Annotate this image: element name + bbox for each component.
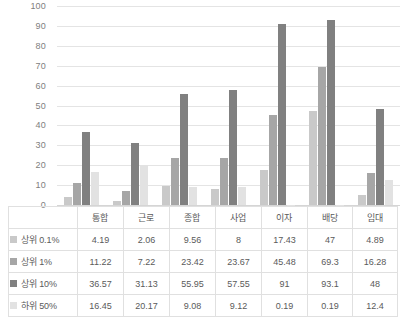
bar <box>260 170 268 205</box>
y-axis-tick: 50 <box>36 101 46 111</box>
table-value-cell: 57.55 <box>216 273 262 295</box>
table-value-cell: 0.19 <box>308 295 353 317</box>
y-axis: 100 90 80 70 60 50 40 30 20 10 0 <box>0 0 52 212</box>
table-value-cell: 69.3 <box>308 251 353 273</box>
table-value-cell: 45.48 <box>262 251 308 273</box>
category-header-cell: 사업 <box>216 207 262 229</box>
table-row: 상위 10%36.5731.1355.9557.559193.148 <box>9 273 398 295</box>
legend-label: 상위 0.1% <box>21 233 59 246</box>
bar <box>376 109 384 205</box>
bar-group <box>302 6 351 205</box>
bar-group <box>155 6 204 205</box>
plot-wrapper: 100 90 80 70 60 50 40 30 20 10 0 <box>0 0 403 212</box>
table-value-cell: 20.17 <box>124 295 170 317</box>
table-value-cell: 93.1 <box>308 273 353 295</box>
table-value-cell: 47 <box>308 229 353 251</box>
legend-label: 상위 1% <box>21 255 52 268</box>
bar <box>238 187 246 205</box>
bar <box>189 187 197 205</box>
bar <box>180 94 188 205</box>
legend-cell: 상위 1% <box>9 251 78 273</box>
y-axis-tick: 100 <box>30 1 46 11</box>
table-value-cell: 31.13 <box>124 273 170 295</box>
bar <box>367 173 375 205</box>
legend-swatch-icon <box>10 258 17 265</box>
table-value-cell: 11.22 <box>78 251 124 273</box>
bar <box>82 132 90 205</box>
category-header-cell: 종합 <box>170 207 216 229</box>
legend-swatch-icon <box>10 236 17 243</box>
bar-group <box>57 6 106 205</box>
table-value-cell: 91 <box>262 273 308 295</box>
table-value-cell: 8 <box>216 229 262 251</box>
table-row: 상위 1%11.227.2223.4223.6745.4869.316.28 <box>9 251 398 273</box>
table-value-cell: 9.56 <box>170 229 216 251</box>
bar <box>327 20 335 205</box>
table-value-cell: 55.95 <box>170 273 216 295</box>
y-axis-tick: 60 <box>36 81 46 91</box>
legend-label: 하위 50% <box>21 299 57 312</box>
y-axis-tick: 40 <box>36 120 46 130</box>
category-header-cell: 통합 <box>78 207 124 229</box>
data-table-wrapper: 통합근로종합사업이자배당임대상위 0.1%4.192.069.56817.434… <box>8 206 397 317</box>
category-header-cell: 근로 <box>124 207 170 229</box>
bar <box>309 111 317 205</box>
legend-cell: 하위 50% <box>9 295 78 317</box>
table-value-cell: 17.43 <box>262 229 308 251</box>
table-row: 하위 50%16.4520.179.089.120.190.1912.4 <box>9 295 398 317</box>
bar <box>140 165 148 205</box>
legend-swatch-icon <box>10 302 17 309</box>
category-header-cell: 배당 <box>308 207 353 229</box>
table-value-cell: 4.89 <box>353 229 398 251</box>
bar <box>122 191 130 205</box>
category-header-cell: 임대 <box>353 207 398 229</box>
y-axis-tick: 80 <box>36 41 46 51</box>
table-value-cell: 16.28 <box>353 251 398 273</box>
bar <box>64 197 72 205</box>
bar-group <box>351 6 400 205</box>
bar-groups <box>57 6 400 205</box>
plot-area <box>57 6 400 205</box>
category-header-cell: 이자 <box>262 207 308 229</box>
y-axis-tick: 10 <box>36 180 46 190</box>
legend-swatch-icon <box>10 280 17 287</box>
table-corner-cell <box>9 207 78 229</box>
bar <box>318 67 326 205</box>
y-axis-tick: 30 <box>36 140 46 150</box>
bar <box>269 115 277 206</box>
bar <box>278 24 286 205</box>
bar <box>113 201 121 205</box>
table-value-cell: 9.12 <box>216 295 262 317</box>
table-value-cell: 4.19 <box>78 229 124 251</box>
table-row: 상위 0.1%4.192.069.56817.43474.89 <box>9 229 398 251</box>
bar <box>91 172 99 205</box>
table-value-cell: 36.57 <box>78 273 124 295</box>
bar <box>171 158 179 205</box>
bar <box>220 158 228 205</box>
bar-group <box>204 6 253 205</box>
legend-cell: 상위 0.1% <box>9 229 78 251</box>
bar-group <box>253 6 302 205</box>
legend-label: 상위 10% <box>21 277 57 290</box>
bar <box>211 189 219 205</box>
table-header-row: 통합근로종합사업이자배당임대 <box>9 207 398 229</box>
data-table: 통합근로종합사업이자배당임대상위 0.1%4.192.069.56817.434… <box>8 206 398 317</box>
bar <box>385 180 393 205</box>
table-value-cell: 2.06 <box>124 229 170 251</box>
table-value-cell: 23.42 <box>170 251 216 273</box>
table-value-cell: 12.4 <box>353 295 398 317</box>
table-value-cell: 16.45 <box>78 295 124 317</box>
bar <box>358 195 366 205</box>
grouped-bar-chart-with-data-table: 100 90 80 70 60 50 40 30 20 10 0 <box>0 0 403 325</box>
table-value-cell: 23.67 <box>216 251 262 273</box>
bar <box>162 186 170 205</box>
table-value-cell: 7.22 <box>124 251 170 273</box>
bar-group <box>106 6 155 205</box>
table-value-cell: 48 <box>353 273 398 295</box>
y-axis-tick: 90 <box>36 21 46 31</box>
y-axis-tick: 20 <box>36 160 46 170</box>
y-axis-tick: 70 <box>36 61 46 71</box>
bar <box>229 90 237 205</box>
bar <box>73 183 81 205</box>
table-value-cell: 0.19 <box>262 295 308 317</box>
